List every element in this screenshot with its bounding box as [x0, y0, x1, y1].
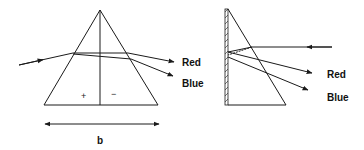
blue-ray-exit: [131, 59, 173, 76]
right-blue-label: Blue: [327, 92, 349, 103]
plus-sign-label: +: [81, 91, 86, 101]
diagram-canvas: Red Blue + − b Red Blue: [0, 0, 364, 150]
left-red-label: Red: [182, 57, 201, 68]
left-prism-figure: Red Blue + − b: [19, 10, 204, 146]
prism-outline: [44, 10, 158, 105]
prism-hypotenuse: [228, 9, 286, 105]
incident-ray-arrow-icon: [19, 60, 43, 65]
right-prism-figure: Red Blue: [225, 9, 349, 105]
right-red-label: Red: [327, 69, 346, 80]
left-blue-label: Blue: [182, 78, 204, 89]
blue-ray-inside: [73, 54, 131, 59]
base-dimension-label: b: [97, 135, 103, 146]
minus-sign-label: −: [111, 89, 116, 99]
